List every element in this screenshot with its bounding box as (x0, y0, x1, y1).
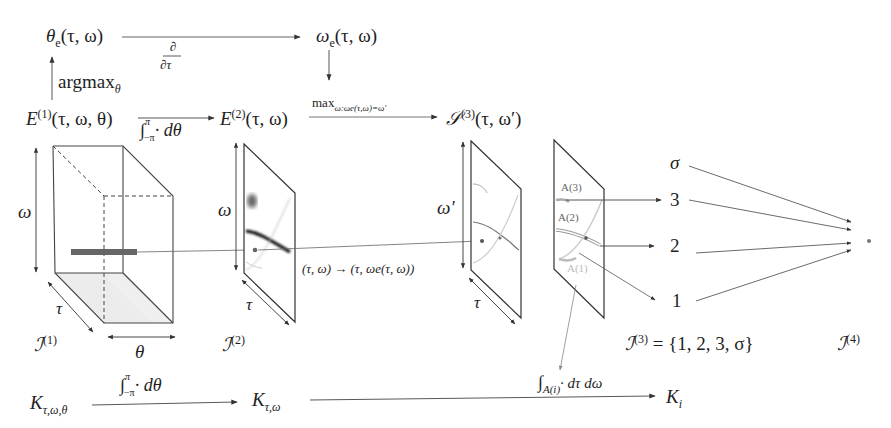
arrow-regions-to-integral (560, 285, 576, 370)
argmax-label: argmaxθ (58, 72, 121, 95)
arrow-sigma-to-I4 (689, 166, 851, 222)
K-tau-omega-theta-label: Kτ,ω,θ (30, 393, 67, 416)
arrow-3-to-I4 (689, 200, 851, 230)
cube-tau-label: τ (56, 300, 62, 317)
mapping-label: (τ, ω) → (τ, ωe(τ, ω)) (302, 262, 414, 275)
output-3: 3 (670, 190, 680, 209)
region-A2-label: A(2) (558, 211, 579, 223)
arrow-bar-to-panel2 (137, 250, 250, 252)
output-2: 2 (670, 236, 680, 255)
E1-label: E(1)(τ, ω, θ) (26, 108, 113, 128)
arrow-K2-to-Ki (310, 396, 655, 400)
K-tau-omega-label: Kτ,ω (252, 390, 280, 413)
I4-point (867, 239, 871, 243)
region-integral-label: ∫A(i)· dτ dω (538, 373, 602, 395)
output-sigma: σ (670, 153, 679, 172)
panel-S3 (471, 141, 521, 318)
panel3-tau-label: τ (474, 294, 480, 311)
panel2-omega-label: ω (218, 200, 231, 219)
S3-label: 𝒮(3)(τ, ω′) (446, 108, 521, 128)
bottom-integral-theta-label: ∫π−π· dθ (120, 376, 162, 398)
arrow-2-to-I4 (696, 243, 851, 253)
arrow-1-to-I4 (696, 250, 851, 301)
region-A3-label: A(3) (561, 181, 582, 193)
output-1: 1 (672, 291, 682, 310)
d-dtau-denominator: ∂τ (160, 58, 171, 71)
cube-omega-label: ω (18, 202, 31, 221)
E2-label: E(2)(τ, ω) (220, 108, 288, 128)
K-i-label: Ki (666, 387, 682, 410)
panel-regions (554, 140, 604, 318)
region-A1-label: A(1) (567, 262, 588, 274)
panel3-omega-prime-label: ω′ (437, 198, 455, 217)
panel2-tau-label: τ (246, 296, 252, 313)
I1-label: ℐ(1) (34, 334, 57, 354)
cube-I1 (53, 146, 173, 323)
I3-set-label: ℐ(3) = {1, 2, 3, σ} (625, 333, 754, 353)
arrow-K1-to-K2 (92, 402, 237, 405)
I2-label: ℐ(2) (222, 334, 245, 354)
I4-label: ℐ(4) (837, 333, 860, 353)
cube-theta-label: θ (135, 342, 144, 361)
cube-slice-bar (71, 249, 137, 255)
d-dtau-numerator: ∂ (164, 40, 182, 53)
theta-e-label: θe(τ, ω) (46, 26, 103, 49)
max-constraint-label: maxω:ωe(τ,ω)=ω′ (312, 96, 386, 113)
omega-e-label: ωe(τ, ω) (316, 26, 377, 49)
integral-theta-label: ∫π−π· dθ (140, 121, 182, 143)
